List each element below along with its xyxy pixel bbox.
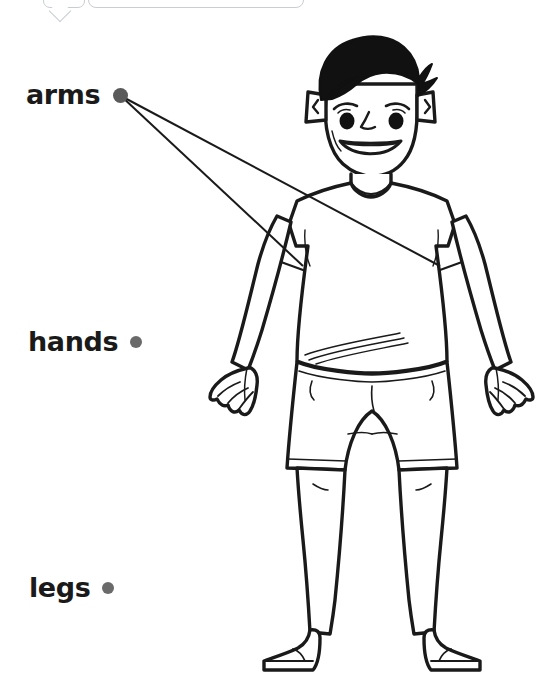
label-hands[interactable]: hands: [28, 328, 118, 355]
worksheet-canvas: arms hands legs: [0, 0, 538, 685]
label-arms[interactable]: arms: [26, 81, 100, 108]
dot-arms[interactable]: [113, 88, 128, 103]
dot-legs[interactable]: [102, 582, 114, 594]
dot-hands[interactable]: [130, 336, 142, 348]
label-legs[interactable]: legs: [29, 574, 90, 601]
